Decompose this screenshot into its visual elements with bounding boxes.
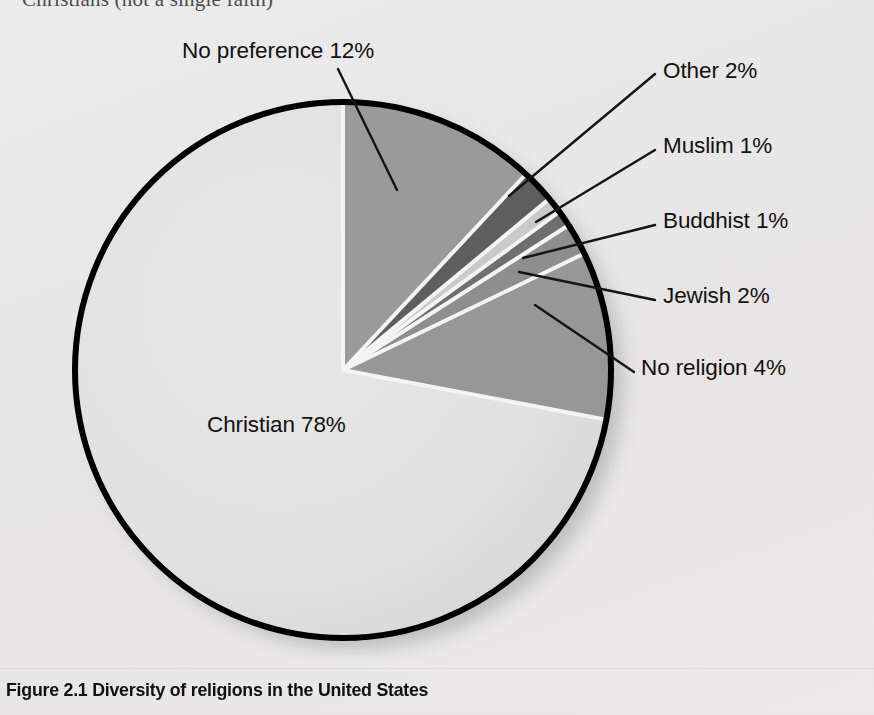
figure-caption: Figure 2.1 Diversity of religions in the…	[6, 679, 428, 701]
leader-line-other	[509, 74, 655, 196]
pie-label-no-preference: No preference 12%	[182, 38, 374, 64]
caption-divider	[0, 668, 874, 669]
pie-label-other: Other 2%	[663, 58, 757, 84]
leader-line-muslim	[536, 150, 655, 222]
pie-chart-figure: No preference 12% Other 2% Muslim 1% Bud…	[0, 0, 874, 660]
pie-label-jewish: Jewish 2%	[663, 283, 770, 309]
pie-chart-svg	[0, 0, 874, 660]
pie-label-christian: Christian 78%	[207, 412, 346, 438]
figure-page: Christians (not a single faith)	[0, 0, 874, 715]
pie-label-muslim: Muslim 1%	[663, 133, 772, 159]
pie-label-no-religion: No religion 4%	[641, 355, 786, 381]
pie-label-buddhist: Buddhist 1%	[663, 208, 788, 234]
